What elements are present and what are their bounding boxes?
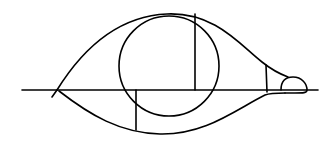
- inner-circle: [119, 16, 219, 116]
- left-tail-stub: [52, 90, 57, 97]
- upper-outline-curve: [57, 14, 288, 90]
- eye-diagram: [0, 0, 334, 145]
- lower-outline-curve: [59, 91, 285, 134]
- tip-vertical-line: [266, 65, 267, 92]
